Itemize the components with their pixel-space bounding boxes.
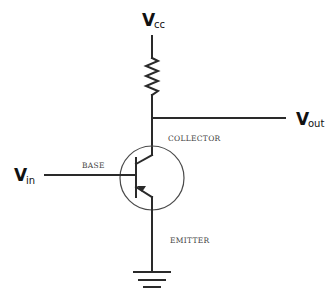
vin-label-sub: in bbox=[26, 175, 35, 186]
circuit-diagram: V cc V out COLLECTOR BASE V in EMITTER bbox=[0, 0, 334, 308]
vin-label: V in bbox=[14, 165, 35, 186]
ground-icon bbox=[134, 272, 170, 287]
vout-label: V out bbox=[296, 109, 324, 129]
collector-label: COLLECTOR bbox=[168, 134, 221, 143]
transistor-icon bbox=[136, 155, 152, 197]
resistor-icon bbox=[146, 58, 158, 95]
emitter-label: EMITTER bbox=[170, 236, 210, 245]
vcc-label: V cc bbox=[142, 10, 165, 30]
base-label: BASE bbox=[82, 161, 105, 170]
collector-lead bbox=[136, 155, 152, 164]
vout-label-sub: out bbox=[308, 118, 324, 129]
vcc-label-sub: cc bbox=[154, 19, 165, 30]
